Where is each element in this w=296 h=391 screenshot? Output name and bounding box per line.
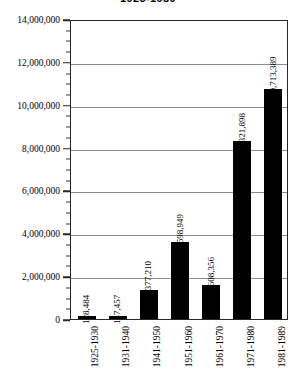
bar[interactable] xyxy=(264,89,282,319)
x-axis-tick-label: 1925-1930 xyxy=(90,326,100,367)
x-axis-tick-label: 1971-1980 xyxy=(246,326,256,367)
y-axis-major-tick xyxy=(63,62,70,64)
plot-area: 128,484147,4571,377,2103,598,9491,608,35… xyxy=(70,20,288,320)
bar[interactable] xyxy=(171,242,189,319)
y-axis-major-tick xyxy=(63,234,70,236)
x-axis-tick-label: 1951-1960 xyxy=(184,326,194,367)
y-axis-major-tick xyxy=(63,148,70,150)
x-axis-tick-label: 1981-1989 xyxy=(277,326,287,367)
x-axis-tick-label: 1931-1940 xyxy=(121,326,131,367)
y-axis-major-tick xyxy=(63,191,70,193)
bar[interactable] xyxy=(233,141,251,319)
chart-title: 1925-1989 xyxy=(0,0,296,4)
y-axis-major-tick xyxy=(63,276,70,278)
x-axis-tick-label: 1941-1950 xyxy=(152,326,162,367)
bar-value-label: 3,598,949 xyxy=(175,214,185,250)
bar-value-label: 1,377,210 xyxy=(143,261,153,297)
x-axis-label-group: 1925-19301931-19401941-19501951-19601961… xyxy=(70,320,288,391)
y-axis-major-tick xyxy=(63,105,70,107)
bar-group: 128,484147,4571,377,2103,598,9491,608,35… xyxy=(71,21,287,319)
x-axis-tick-label: 1961-1970 xyxy=(215,326,225,367)
bar-chart-figure: 1925-1989 02,000,0004,000,0006,000,0008,… xyxy=(0,0,296,391)
y-axis-major-tick xyxy=(63,19,70,21)
y-axis-major-tick xyxy=(63,319,70,321)
y-axis-tick-group xyxy=(0,20,70,320)
bar-value-label: 8,321,898 xyxy=(237,113,247,149)
bar-value-label: 1,608,356 xyxy=(206,257,216,293)
bar-value-label: 10,713,389 xyxy=(268,57,278,98)
